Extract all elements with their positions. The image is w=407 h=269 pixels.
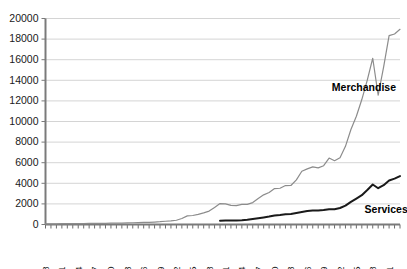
y-axis-tick-label: 18000 — [9, 32, 38, 44]
line-chart: 0200040006000800010000120001400016000180… — [0, 0, 407, 269]
y-axis-tick-label: 16000 — [9, 53, 38, 65]
series-label-merchandise: Merchandise — [332, 81, 396, 93]
y-axis-tick-label: 6000 — [15, 156, 39, 168]
y-axis-labels: 0200040006000800010000120001400016000180… — [9, 12, 38, 230]
y-axis-tick-label: 8000 — [15, 135, 39, 147]
y-axis-tick-label: 12000 — [9, 94, 38, 106]
y-axis-tick-label: 2000 — [15, 197, 39, 209]
data-series — [46, 29, 401, 224]
chart-container: 0200040006000800010000120001400016000180… — [0, 0, 407, 269]
series-label-services: Services — [365, 203, 407, 215]
y-axis-tick-label: 14000 — [9, 74, 38, 86]
series-line-merchandise — [46, 29, 401, 224]
y-axis-tick-label: 0 — [33, 218, 39, 230]
gridlines — [46, 19, 401, 204]
y-axis-tick-label: 10000 — [9, 115, 38, 127]
y-axis-tick-label: 4000 — [15, 177, 39, 189]
y-axis-tick-label: 20000 — [9, 12, 38, 24]
